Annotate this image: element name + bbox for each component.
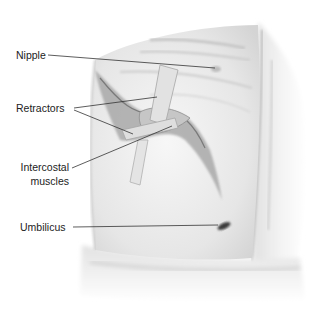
diagram-canvas: Nipple Retractors Intercostal muscles Um… [0,0,320,309]
label-umbilicus: Umbilicus [20,221,66,233]
drape-right [252,22,306,275]
label-intercostal-line2: muscles [17,175,69,187]
label-nipple: Nipple [16,49,46,61]
label-intercostal-line1: Intercostal [17,161,69,173]
anatomy-illustration [0,0,320,309]
label-retractors: Retractors [16,102,64,114]
